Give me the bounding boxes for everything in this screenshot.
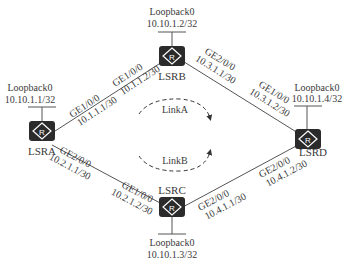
svg-text:R: R [169,53,175,62]
loopback-label-lsrc: Loopback0 [150,237,195,248]
svg-text:R: R [39,128,45,137]
router-lsrb[interactable]: R [159,46,185,66]
router-name-lsrb: LSRB [158,70,186,82]
router-name-lsrd: LSRD [299,146,327,158]
linkb-label: LinkB [162,155,188,166]
svg-text:R: R [169,204,175,213]
router-lsrc[interactable]: R [159,197,185,217]
router-name-lsrc: LSRC [158,184,186,196]
svg-text:R: R [305,136,311,145]
loopback-label-lsrb: Loopback0 [150,6,195,17]
loopback-stem-lsrb [158,32,186,47]
loopback-ip-lsrc: 10.10.1.3/32 [147,249,197,260]
loopback-stem-lsrd [294,106,322,130]
loopback-stem-lsrc [158,215,186,234]
router-lsra[interactable]: R [29,121,55,141]
loopback-ip-lsrb: 10.10.1.2/32 [147,18,197,29]
loopback-label-lsrd: Loopback0 [295,82,340,93]
loopback-ip-lsrd: 10.10.1.4/32 [292,93,342,104]
loopback-ip-lsra: 10.10.1.1/32 [5,94,55,105]
loopback-label-lsra: Loopback0 [8,82,53,93]
loopback-stem-lsra [28,107,56,122]
linka-label: LinkA [162,104,189,115]
